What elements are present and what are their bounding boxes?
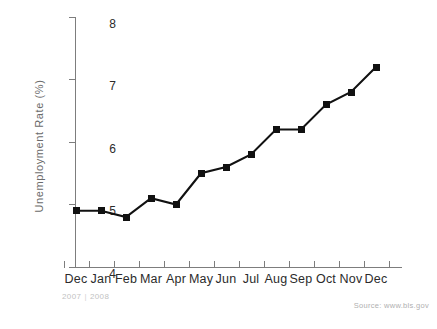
x-tick-mark [214,261,215,268]
data-point [98,207,105,214]
source-attribution: Source: www.bls.gov [354,301,429,310]
x-tick-mark [289,261,290,268]
data-point [273,126,280,133]
y-tick-label-text: 7 [56,79,116,93]
data-point [148,195,155,202]
y-tick-label-text: 8 [56,17,116,31]
y-tick-label-text: 6 [56,142,116,156]
x-tick-mark [339,261,340,268]
x-tick-mark [264,261,265,268]
data-point [348,89,355,96]
data-point [198,170,205,177]
x-tick-mark [89,261,90,268]
chart-screenshot: Unemployment Rate (%) 8 7 6 5 4 DecJanFe… [0,0,437,329]
x-tick-mark [114,261,115,268]
data-point [298,126,305,133]
year-start-label: 2007 [62,292,81,301]
x-tick-mark [189,261,190,268]
y-tick-label-text: 5 [56,204,116,218]
x-tick-mark [239,261,240,268]
x-tick-mark [164,261,165,268]
x-tick-mark [64,261,65,268]
year-separator: | [81,292,89,301]
x-tick-mark [139,261,140,268]
x-tick-label-dec-12: Dec [356,272,396,286]
x-tick-mark [364,261,365,268]
data-point [248,151,255,158]
unemployment-rate-line-chart: Unemployment Rate (%) 8 7 6 5 4 DecJanFe… [0,0,437,329]
year-range-label: 2007|2008 [62,292,109,301]
data-point [73,207,80,214]
data-point [323,101,330,108]
y-axis-title: Unemployment Rate (%) [33,66,45,226]
data-point [173,201,180,208]
year-end-label: 2008 [90,292,109,301]
data-point [123,214,130,221]
x-tick-mark [314,261,315,268]
data-point [373,64,380,71]
x-tick-mark [389,261,390,268]
data-point [223,164,230,171]
